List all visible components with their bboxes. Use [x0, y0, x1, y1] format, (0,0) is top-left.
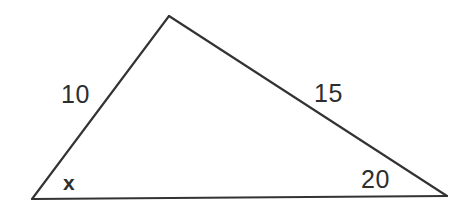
triangle-base-side-line	[32, 196, 447, 199]
side-length-label-left: 10	[61, 82, 90, 107]
triangle-figure: 10 15 20 x	[0, 0, 465, 205]
triangle-left-side-line	[32, 16, 169, 199]
triangle-right-side-line	[169, 16, 447, 196]
side-length-label-base: 20	[361, 167, 390, 192]
unknown-angle-label: x	[63, 172, 75, 193]
side-length-label-right: 15	[314, 81, 343, 106]
